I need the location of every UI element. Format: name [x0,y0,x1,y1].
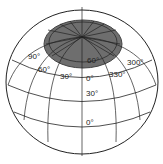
label-lon-90: 90° [28,52,40,61]
label-lon-300: 300° [127,58,144,67]
label-lat-30: 30° [86,89,98,98]
label-lon-330: 330° [109,70,126,79]
label-lat-60: 60° [87,56,99,65]
label-lon-0: 0° [86,74,94,83]
label-lon-60: 60° [38,65,50,74]
globe-diagram: 90° 60° 30° 0° 330° 300° 60° 30° 0° [0,0,163,164]
polar-cap [44,20,122,68]
label-lon-30: 30° [60,72,72,81]
label-lat-0: 0° [86,118,94,127]
